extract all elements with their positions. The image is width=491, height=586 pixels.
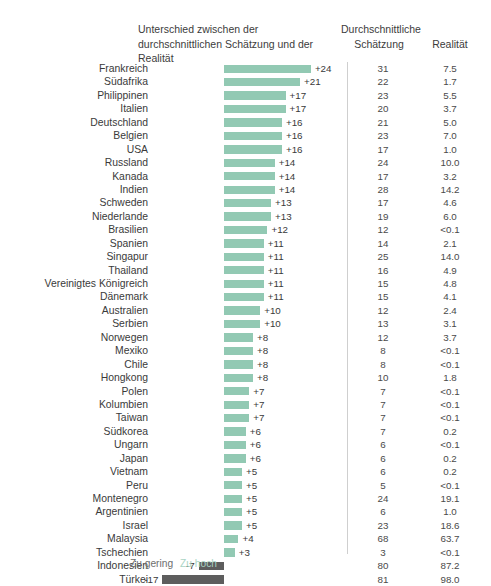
bar-positive bbox=[224, 199, 271, 207]
row-average-estimate: 7 bbox=[349, 398, 417, 411]
row-bar-area: +8 bbox=[0, 358, 347, 371]
bar-positive bbox=[224, 387, 249, 395]
row-bar-area: +11 bbox=[0, 277, 347, 290]
row-bar-area: +17 bbox=[0, 89, 347, 102]
row-reality: 0.2 bbox=[417, 425, 483, 438]
row-average-estimate: 8 bbox=[349, 344, 417, 357]
bar-positive bbox=[224, 132, 282, 140]
row-difference-value: +14 bbox=[279, 170, 296, 183]
row-bar-area: +5 bbox=[0, 505, 347, 518]
row-bar-area: +11 bbox=[0, 264, 347, 277]
row-reality: <0.1 bbox=[417, 223, 483, 236]
row-bar-area: +13 bbox=[0, 196, 347, 209]
chart-row: Ungarn+66<0.1 bbox=[0, 438, 491, 451]
row-difference-value: +6 bbox=[250, 425, 261, 438]
row-difference-value: +5 bbox=[246, 519, 257, 532]
row-bar-area: +6 bbox=[0, 425, 347, 438]
row-reality: <0.1 bbox=[417, 385, 483, 398]
chart-row: Kolumbien+77<0.1 bbox=[0, 398, 491, 411]
row-bar-area: +13 bbox=[0, 210, 347, 223]
bar-positive bbox=[224, 548, 235, 556]
row-reality: 3.2 bbox=[417, 170, 483, 183]
column-header-average-estimate-line2: Schätzung bbox=[343, 37, 415, 52]
row-bar-area: +8 bbox=[0, 371, 347, 384]
chart-row: Montenegro+52419.1 bbox=[0, 492, 491, 505]
row-reality: <0.1 bbox=[417, 546, 483, 559]
row-average-estimate: 81 bbox=[349, 573, 417, 586]
row-average-estimate: 17 bbox=[349, 196, 417, 209]
chart-row: Südafrika+21221.7 bbox=[0, 75, 491, 88]
row-average-estimate: 21 bbox=[349, 116, 417, 129]
row-average-estimate: 15 bbox=[349, 277, 417, 290]
row-difference-value: +24 bbox=[315, 62, 332, 75]
row-reality: 4.9 bbox=[417, 264, 483, 277]
bar-positive bbox=[224, 266, 264, 274]
chart-row: Indien+142814.2 bbox=[0, 183, 491, 196]
row-bar-area: +12 bbox=[0, 223, 347, 236]
row-bar-area: +16 bbox=[0, 129, 347, 142]
bar-positive bbox=[224, 414, 249, 422]
row-reality: <0.1 bbox=[417, 479, 483, 492]
row-bar-area: +5 bbox=[0, 479, 347, 492]
bar-positive bbox=[224, 78, 300, 86]
row-reality: 0.2 bbox=[417, 465, 483, 478]
row-difference-value: +16 bbox=[286, 129, 303, 142]
row-difference-value: -17 bbox=[144, 573, 158, 586]
row-average-estimate: 6 bbox=[349, 452, 417, 465]
bar-positive bbox=[224, 159, 275, 167]
row-difference-value: +6 bbox=[250, 452, 261, 465]
chart-row: Deutschland+16215.0 bbox=[0, 116, 491, 129]
row-reality: 7.5 bbox=[417, 62, 483, 75]
bar-positive bbox=[224, 105, 286, 113]
bar-positive bbox=[224, 186, 275, 194]
row-average-estimate: 68 bbox=[349, 532, 417, 545]
row-difference-value: +5 bbox=[246, 505, 257, 518]
row-average-estimate: 80 bbox=[349, 559, 417, 572]
row-average-estimate: 8 bbox=[349, 358, 417, 371]
bar-positive bbox=[224, 333, 253, 341]
bar-positive bbox=[224, 320, 260, 328]
bar-positive bbox=[224, 481, 242, 489]
row-difference-value: +5 bbox=[246, 479, 257, 492]
row-average-estimate: 22 bbox=[349, 75, 417, 88]
chart-row: USA+16171.0 bbox=[0, 143, 491, 156]
bar-positive bbox=[224, 239, 264, 247]
row-difference-value: +11 bbox=[268, 290, 284, 303]
chart-header: Unterschied zwischen der durchschnittlic… bbox=[0, 22, 491, 64]
chart-row: Brasilien+1212<0.1 bbox=[0, 223, 491, 236]
row-difference-value: +7 bbox=[253, 398, 264, 411]
row-reality: 4.6 bbox=[417, 196, 483, 209]
bar-positive bbox=[224, 441, 246, 449]
row-reality: 98.0 bbox=[417, 573, 483, 586]
chart-row: Vereinigtes Königreich+11154.8 bbox=[0, 277, 491, 290]
row-reality: 18.6 bbox=[417, 519, 483, 532]
bar-negative bbox=[162, 575, 224, 583]
row-bar-area: +7 bbox=[0, 398, 347, 411]
row-bar-area: +14 bbox=[0, 183, 347, 196]
row-difference-value: +4 bbox=[242, 532, 253, 545]
row-average-estimate: 20 bbox=[349, 102, 417, 115]
row-difference-value: +21 bbox=[304, 75, 321, 88]
row-reality: 3.1 bbox=[417, 317, 483, 330]
row-average-estimate: 3 bbox=[349, 546, 417, 559]
row-reality: 6.0 bbox=[417, 210, 483, 223]
row-difference-value: +13 bbox=[275, 210, 292, 223]
row-difference-value: +12 bbox=[271, 223, 288, 236]
bar-positive bbox=[224, 293, 264, 301]
row-reality: 2.1 bbox=[417, 237, 483, 250]
chart-row: Kanada+14173.2 bbox=[0, 170, 491, 183]
row-difference-value: +5 bbox=[246, 465, 257, 478]
row-bar-area: +5 bbox=[0, 465, 347, 478]
row-reality: 2.4 bbox=[417, 304, 483, 317]
row-reality: 14.2 bbox=[417, 183, 483, 196]
row-average-estimate: 16 bbox=[349, 264, 417, 277]
row-average-estimate: 19 bbox=[349, 210, 417, 223]
row-average-estimate: 7 bbox=[349, 411, 417, 424]
row-average-estimate: 10 bbox=[349, 371, 417, 384]
chart-row: Taiwan+77<0.1 bbox=[0, 411, 491, 424]
row-reality: <0.1 bbox=[417, 398, 483, 411]
chart-row: Polen+77<0.1 bbox=[0, 385, 491, 398]
row-bar-area: +6 bbox=[0, 438, 347, 451]
bar-positive bbox=[224, 401, 249, 409]
row-bar-area: +8 bbox=[0, 344, 347, 357]
